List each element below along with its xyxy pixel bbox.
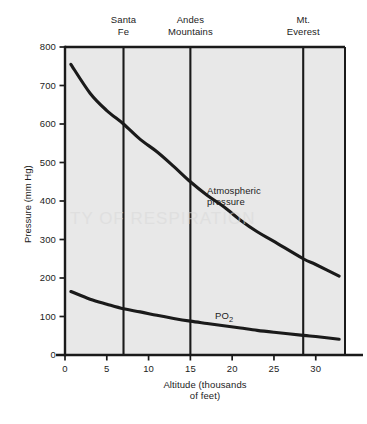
marker-label-mt-everest: Mt.Everest [287, 14, 320, 37]
po2-label: PO2 [215, 310, 233, 325]
y-tick-label-300: 300 [40, 234, 56, 245]
pressure-altitude-chart: SantaFeAndesMountainsMt.Everest010020030… [0, 0, 367, 424]
marker-label-andes: AndesMountains [168, 14, 213, 37]
x-tick-label-20: 20 [227, 363, 238, 374]
y-tick-label-800: 800 [40, 41, 56, 52]
y-tick-label-200: 200 [40, 272, 56, 283]
x-axis-title-line1: Altitude (thousands [163, 379, 246, 390]
watermark-text: TY OF RESPIRATION [70, 209, 255, 229]
y-tick-label-100: 100 [40, 311, 56, 322]
x-tick-label-30: 30 [310, 363, 321, 374]
y-tick-label-500: 500 [40, 157, 56, 168]
y-tick-label-400: 400 [40, 195, 56, 206]
y-tick-label-700: 700 [40, 80, 56, 91]
x-tick-label-10: 10 [143, 363, 154, 374]
y-tick-label-0: 0 [51, 349, 56, 360]
atmospheric-pressure-label: Atmosphericpressure [207, 185, 261, 207]
x-tick-label-15: 15 [185, 363, 196, 374]
y-tick-label-600: 600 [40, 118, 56, 129]
marker-label-santa-fe: SantaFe [111, 14, 136, 37]
x-axis-title-line2: of feet) [190, 390, 220, 401]
x-axis-title: Altitude (thousandsof feet) [163, 379, 246, 401]
x-tick-label-5: 5 [104, 363, 109, 374]
x-tick-label-25: 25 [269, 363, 280, 374]
y-axis-title: Pressure (mm Hg) [22, 165, 33, 243]
x-tick-label-0: 0 [62, 363, 67, 374]
